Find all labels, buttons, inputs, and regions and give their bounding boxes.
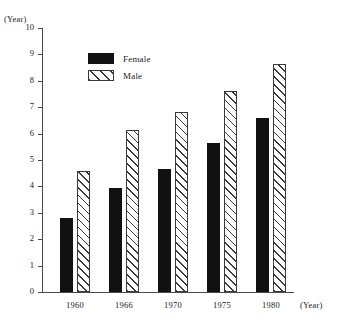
plot-area: 012345678910 19601966197019751980 (Year) xyxy=(42,28,300,293)
y-tick-label: 6 xyxy=(30,128,34,139)
x-tick-label-1970: 1970 xyxy=(150,300,196,310)
bar-group-1966 xyxy=(109,28,139,292)
bar-male-1960 xyxy=(77,171,90,292)
bar-group-1960 xyxy=(60,28,90,292)
y-tick-label: 5 xyxy=(30,154,34,165)
bar-male-1966 xyxy=(126,130,139,292)
x-tick-label-1980: 1980 xyxy=(248,300,294,310)
y-tick-label: 3 xyxy=(30,207,34,218)
bar-male-1980 xyxy=(273,64,286,292)
y-tick-label: 7 xyxy=(30,101,34,112)
x-axis-title: (Year) xyxy=(300,300,323,310)
y-tick-label: 10 xyxy=(26,22,35,33)
bar-female-1960 xyxy=(60,218,73,292)
bar-female-1980 xyxy=(256,118,269,292)
y-tick-label: 8 xyxy=(30,75,34,86)
y-tick-label: 1 xyxy=(30,260,34,271)
bar-group-1980 xyxy=(256,28,286,292)
bars-layer xyxy=(42,28,300,293)
bar-female-1970 xyxy=(158,169,171,292)
y-tick-label: 0 xyxy=(30,286,34,297)
x-tick-label-1975: 1975 xyxy=(199,300,245,310)
y-tick-label: 9 xyxy=(30,48,34,59)
bar-group-1975 xyxy=(207,28,237,292)
bar-male-1975 xyxy=(224,91,237,292)
bar-chart: (Year) Female Male 012345678910 19601966… xyxy=(0,0,339,326)
x-tick-label-1960: 1960 xyxy=(52,300,98,310)
y-axis-title: (Year) xyxy=(4,14,27,24)
y-tick-label: 4 xyxy=(30,180,34,191)
bar-female-1966 xyxy=(109,188,122,292)
bar-group-1970 xyxy=(158,28,188,292)
bar-female-1975 xyxy=(207,143,220,292)
y-tick-label: 2 xyxy=(30,233,34,244)
bar-male-1970 xyxy=(175,112,188,292)
x-tick-label-1966: 1966 xyxy=(101,300,147,310)
